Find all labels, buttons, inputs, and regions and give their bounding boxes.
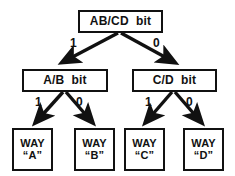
- node-root-label: AB/CD bit: [90, 15, 151, 28]
- node-ab-bit: A/B bit: [22, 69, 108, 92]
- node-leaf-way-c-line1: WAY: [132, 138, 157, 150]
- node-leaf-way-b-line2: “B”: [85, 150, 105, 162]
- node-leaf-way-a-line1: WAY: [20, 138, 45, 150]
- node-leaf-way-d-line2: “D”: [194, 150, 214, 162]
- node-root-abcd-bit: AB/CD bit: [78, 10, 163, 33]
- edge-label-left-mid-to-leaf-a: 1: [35, 96, 42, 108]
- node-ab-label: A/B bit: [43, 74, 87, 87]
- node-leaf-way-c-line2: “C”: [135, 150, 155, 162]
- decision-tree-diagram: AB/CD bit A/B bit C/D bit WAY “A” WAY “B…: [0, 0, 235, 176]
- edge-root-to-right-mid: [121, 33, 174, 62]
- node-leaf-way-a-line2: “A”: [23, 150, 43, 162]
- edge-label-right-mid-to-leaf-c: 1: [145, 96, 152, 108]
- node-leaf-way-d: WAY “D”: [183, 128, 224, 171]
- edge-label-left-mid-to-leaf-b: 0: [76, 96, 83, 108]
- edge-label-right-mid-to-leaf-d: 0: [186, 96, 193, 108]
- node-cd-label: C/D bit: [153, 74, 197, 87]
- edge-label-root-to-left-mid: 1: [70, 37, 77, 49]
- node-leaf-way-d-line1: WAY: [191, 138, 216, 150]
- edge-label-root-to-right-mid: 0: [153, 37, 160, 49]
- node-cd-bit: C/D bit: [132, 69, 217, 92]
- node-leaf-way-b: WAY “B”: [74, 128, 115, 171]
- node-leaf-way-c: WAY “C”: [124, 128, 165, 171]
- node-leaf-way-a: WAY “A”: [12, 128, 53, 171]
- node-leaf-way-b-line1: WAY: [82, 138, 107, 150]
